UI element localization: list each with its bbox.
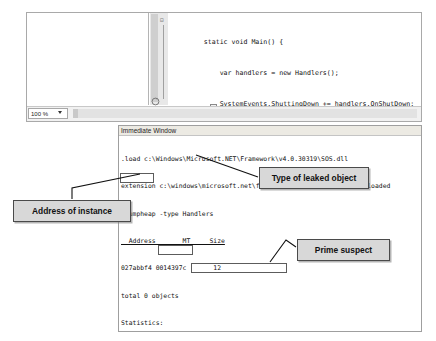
output-line: !dumpheap -type Handlers (121, 210, 420, 219)
system-action-highlight (191, 263, 287, 273)
editor-horizontal-scrollbar-thumb[interactable] (73, 109, 78, 118)
code-editor-pane: ⊟ static void Main() { var handlers = ne… (26, 12, 422, 122)
immediate-window-title: Immediate Window (119, 126, 421, 136)
address-of-instance-highlight (120, 173, 154, 183)
outline-collapse-icon[interactable]: ⊟ (160, 15, 170, 24)
gcroot-address-highlight (158, 245, 193, 255)
refresh-icon[interactable] (151, 92, 160, 101)
code-line: static void Main() { (172, 37, 419, 47)
immediate-window-pane: Immediate Window .load c:\Windows\Micros… (118, 125, 422, 332)
code-line: var handlers = new Handlers(); (172, 68, 419, 78)
editor-horizontal-scrollbar[interactable] (73, 109, 417, 118)
callout-address-of-instance: Address of instance (13, 200, 131, 222)
chevron-down-icon[interactable] (58, 111, 62, 114)
callout-type-of-leaked-object: Type of leaked object (259, 167, 369, 189)
screenshot-root: ⊟ static void Main() { var handlers = ne… (0, 0, 436, 341)
zoom-level-combobox[interactable]: 100 % (28, 108, 68, 119)
editor-status-bar: 100 % (27, 106, 421, 121)
output-line: .load c:\Windows\Microsoft.NET\Framework… (121, 155, 420, 164)
output-line: Statistics: (121, 319, 420, 328)
callout-label: Prime suspect (315, 245, 372, 255)
callout-label: Type of leaked object (272, 173, 357, 183)
editor-scrollbar-thumb[interactable] (151, 14, 158, 102)
output-line: total 0 objects (121, 292, 420, 301)
editor-blank-gutter (27, 13, 149, 105)
outline-guide-line (163, 25, 164, 99)
callout-prime-suspect: Prime suspect (297, 239, 390, 261)
callout-label: Address of instance (32, 206, 112, 216)
zoom-level-value: 100 % (31, 111, 48, 117)
